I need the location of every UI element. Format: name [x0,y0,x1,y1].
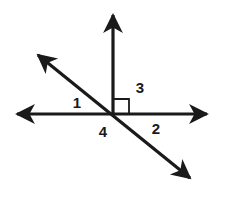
geometry-diagram: 1 3 2 4 [0,0,226,199]
angle-label-3: 3 [136,79,144,96]
angle-label-2: 2 [152,120,160,137]
angle-label-4: 4 [99,123,108,140]
angle-label-1: 1 [73,94,81,111]
geometry-canvas: 1 3 2 4 [0,0,226,199]
